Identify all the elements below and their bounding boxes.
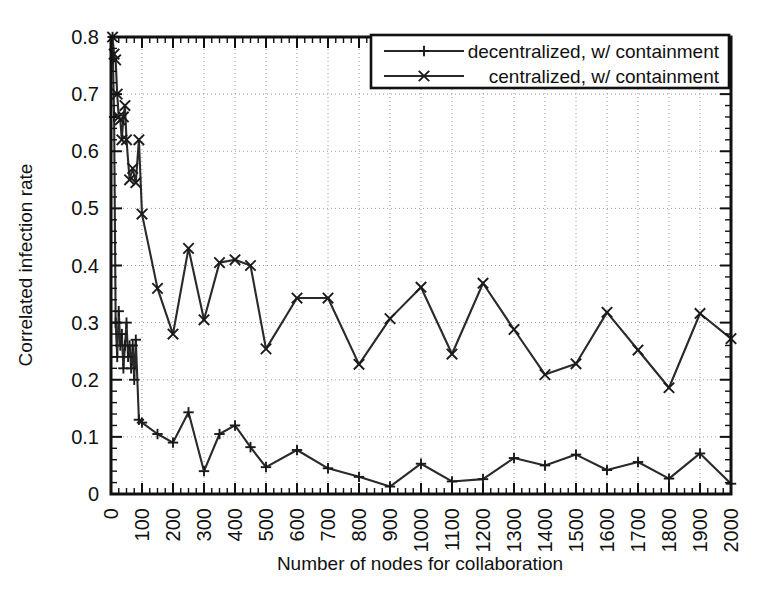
data-point-marker bbox=[168, 437, 178, 447]
x-tick-label: 700 bbox=[317, 508, 339, 541]
data-point-marker bbox=[183, 407, 193, 417]
x-tick-label: 1300 bbox=[503, 508, 525, 553]
x-tick-label: 500 bbox=[255, 508, 277, 541]
x-tick-label: 1100 bbox=[441, 508, 463, 551]
x-tick-label: 0 bbox=[100, 508, 122, 519]
data-point-marker bbox=[633, 457, 643, 467]
x-tick-label: 1500 bbox=[565, 508, 587, 553]
x-tick-label: 800 bbox=[348, 508, 370, 541]
y-tick-label: 0.8 bbox=[71, 26, 99, 48]
y-tick-labels-group: 00.10.20.30.40.50.60.70.8 bbox=[71, 26, 99, 505]
gridlines-group bbox=[111, 37, 731, 494]
data-point-marker bbox=[540, 369, 550, 379]
y-tick-label: 0.7 bbox=[71, 83, 99, 105]
y-axis-title: Correlated infection rate bbox=[15, 164, 36, 367]
y-tick-label: 0.3 bbox=[71, 312, 99, 334]
data-point-marker bbox=[214, 429, 224, 439]
data-point-marker bbox=[664, 383, 674, 393]
x-tick-label: 200 bbox=[162, 508, 184, 541]
series-1 bbox=[107, 32, 736, 492]
y-tick-label: 0.2 bbox=[71, 369, 99, 391]
legend-label: decentralized, w/ containment bbox=[468, 41, 720, 62]
legend-label: centralized, w/ containment bbox=[489, 66, 720, 87]
data-point-marker bbox=[354, 359, 364, 369]
data-point-marker bbox=[199, 466, 209, 476]
y-tick-label: 0.6 bbox=[71, 140, 99, 162]
x-tick-label: 600 bbox=[286, 508, 308, 541]
x-tick-label: 300 bbox=[193, 508, 215, 541]
x-tick-labels-group: 0100200300400500600700800900100011001200… bbox=[100, 508, 742, 553]
data-point-marker bbox=[540, 460, 550, 470]
y-tick-label: 0.5 bbox=[71, 197, 99, 219]
x-tick-label: 1000 bbox=[410, 508, 432, 553]
x-tick-label: 1600 bbox=[596, 508, 618, 553]
chart-figure: 0100200300400500600700800900100011001200… bbox=[0, 0, 772, 595]
x-tick-label: 1700 bbox=[627, 508, 649, 553]
y-tick-label: 0.4 bbox=[71, 255, 99, 277]
x-axis-title: Number of nodes for collaboration bbox=[277, 553, 563, 574]
data-point-marker bbox=[354, 472, 364, 482]
x-tick-label: 1800 bbox=[658, 508, 680, 553]
data-point-marker bbox=[602, 465, 612, 475]
series-group bbox=[107, 32, 736, 492]
data-point-marker bbox=[121, 317, 131, 327]
data-point-marker bbox=[416, 282, 426, 292]
y-tick-label: 0.1 bbox=[71, 426, 99, 448]
data-point-marker bbox=[478, 278, 488, 288]
x-tick-label: 900 bbox=[379, 508, 401, 541]
x-tick-label: 2000 bbox=[720, 508, 742, 553]
data-point-marker bbox=[323, 463, 333, 473]
data-point-marker bbox=[602, 307, 612, 317]
data-point-marker bbox=[385, 313, 395, 323]
x-tick-label: 100 bbox=[131, 508, 153, 541]
y-tick-label: 0 bbox=[88, 483, 99, 505]
line-chart-svg: 0100200300400500600700800900100011001200… bbox=[0, 0, 772, 595]
data-point-marker bbox=[571, 449, 581, 459]
x-tick-label: 1400 bbox=[534, 508, 556, 553]
x-tick-label: 400 bbox=[224, 508, 246, 541]
data-point-marker bbox=[571, 359, 581, 369]
x-tick-label: 1900 bbox=[689, 508, 711, 553]
x-tick-label: 1200 bbox=[472, 508, 494, 553]
legend: decentralized, w/ containmentcentralized… bbox=[371, 35, 729, 88]
data-point-marker bbox=[292, 445, 302, 455]
